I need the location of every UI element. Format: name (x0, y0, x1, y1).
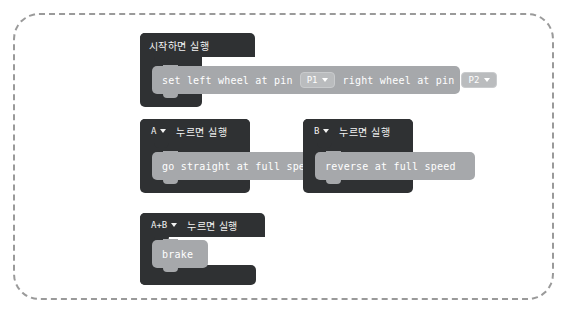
pin-dropdown-left-wheel[interactable]: P1 (300, 72, 336, 88)
event-header-label: 누르면 실행 (176, 124, 227, 139)
button-dropdown-a-value: A (151, 126, 156, 136)
statement-block-go-straight[interactable]: go straight at full speed (152, 152, 327, 180)
chevron-down-icon (160, 129, 166, 133)
button-dropdown-b-value: B (314, 126, 319, 136)
chevron-down-icon (323, 129, 329, 133)
block-notch-top (326, 151, 341, 156)
block-socket (154, 57, 169, 62)
block-workspace[interactable]: 시작하면 실행 set left wheel at pin P1 right w… (13, 13, 554, 300)
button-dropdown-ab[interactable]: A+B (149, 219, 179, 231)
statement-text-right-wheel: right wheel at pin (342, 75, 454, 86)
block-notch-bottom (326, 179, 341, 184)
block-notch-bottom (163, 267, 178, 272)
pin-dropdown-right-value: P2 (468, 75, 479, 85)
pin-dropdown-left-value: P1 (307, 75, 318, 85)
chevron-down-icon (484, 78, 490, 82)
block-notch-bottom (163, 93, 178, 98)
block-notch-bottom (163, 179, 178, 184)
block-socket (317, 143, 332, 148)
statement-block-set-wheels[interactable]: set left wheel at pin P1 right wheel at … (152, 66, 460, 94)
event-header-on-button-a[interactable]: A 누르면 실행 (140, 119, 250, 143)
event-header-on-button-ab[interactable]: A+B 누르면 실행 (140, 213, 265, 237)
pin-dropdown-right-wheel[interactable]: P2 (461, 72, 497, 88)
chevron-down-icon (171, 223, 177, 227)
statement-block-reverse[interactable]: reverse at full speed (315, 152, 475, 180)
button-dropdown-a[interactable]: A (149, 125, 168, 137)
statement-text-set-left-wheel: set left wheel at pin (162, 75, 293, 86)
event-header-on-start[interactable]: 시작하면 실행 (140, 33, 255, 57)
chevron-down-icon (322, 78, 328, 82)
button-dropdown-ab-value: A+B (151, 220, 167, 230)
event-header-label: 누르면 실행 (187, 218, 238, 233)
block-notch-top (163, 151, 178, 156)
block-socket (154, 143, 169, 148)
statement-text-brake: brake (162, 249, 193, 260)
event-block-ab-bottom-arm (140, 265, 256, 285)
button-dropdown-b[interactable]: B (312, 125, 331, 137)
event-header-label: 누르면 실행 (339, 124, 390, 139)
statement-block-brake[interactable]: brake (152, 240, 208, 268)
block-notch-top (163, 65, 178, 70)
statement-text-reverse: reverse at full speed (325, 161, 456, 172)
event-header-on-button-b[interactable]: B 누르면 실행 (303, 119, 413, 143)
event-header-label: 시작하면 실행 (149, 38, 209, 53)
block-notch-top (163, 239, 178, 244)
statement-text-go-straight: go straight at full speed (162, 161, 318, 172)
